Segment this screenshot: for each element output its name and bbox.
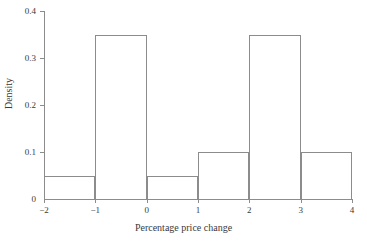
histogram-bar [147,176,198,200]
x-tick-label: −1 [91,206,101,215]
x-tick-label: 2 [247,206,252,215]
x-tick-mark [95,199,96,203]
x-tick-mark [352,199,353,203]
x-tick-label: −2 [39,206,49,215]
x-tick-mark [44,199,45,203]
histogram-figure: −2−101234 00.10.20.30.4 Percentage price… [0,0,367,245]
y-tick-label: 0.4 [0,7,36,16]
y-tick-mark [40,58,44,59]
x-tick-mark [301,199,302,203]
y-tick-label: 0.1 [0,148,36,157]
x-tick-mark [198,199,199,203]
histogram-bar [198,152,249,199]
histogram-bar [95,35,146,200]
histogram-bar [44,176,95,200]
x-tick-label: 3 [298,206,303,215]
y-axis-line [44,11,45,200]
x-tick-label: 4 [350,206,355,215]
x-tick-label: 0 [144,206,149,215]
x-axis-label: Percentage price change [0,222,367,233]
y-tick-mark [40,105,44,106]
y-tick-mark [40,152,44,153]
y-axis-label: Density [3,54,14,134]
histogram-bar [301,152,352,199]
x-tick-label: 1 [196,206,201,215]
y-tick-mark [40,11,44,12]
y-tick-label: 0 [0,195,36,204]
histogram-bar [249,35,300,200]
x-tick-mark [249,199,250,203]
x-tick-mark [147,199,148,203]
